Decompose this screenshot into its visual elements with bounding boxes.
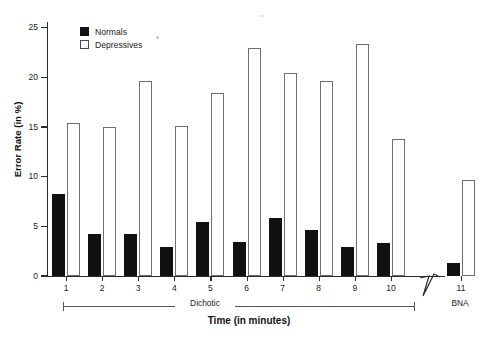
legend-label-normals: Normals xyxy=(95,27,127,37)
bar-normals-3 xyxy=(124,234,137,276)
bar-normals-5 xyxy=(196,222,209,276)
x-tick-3 xyxy=(138,276,139,281)
y-tick-20 xyxy=(41,77,47,78)
y-axis-line xyxy=(47,22,48,276)
bar-depressives-10 xyxy=(392,139,405,276)
legend-label-depressives: Depressives xyxy=(95,40,142,50)
x-tick-6 xyxy=(247,276,248,281)
legend-item-normals: Normals xyxy=(80,25,142,38)
bar-depressives-2 xyxy=(103,127,116,276)
scan-speck xyxy=(261,15,263,17)
bar-depressives-6 xyxy=(248,48,261,276)
y-tick-label-0: 0 xyxy=(0,272,38,281)
x-tick-4 xyxy=(174,276,175,281)
bar-normals-7 xyxy=(269,218,282,276)
scan-speck xyxy=(156,36,159,39)
x-tick-label-2: 2 xyxy=(90,284,114,293)
bar-normals-11 xyxy=(447,263,460,276)
bar-depressives-8 xyxy=(320,81,333,276)
x-tick-label-1: 1 xyxy=(54,284,78,293)
y-tick-0 xyxy=(41,275,47,276)
y-tick-10 xyxy=(41,176,47,177)
dichotic-label: Dichotic xyxy=(175,298,235,308)
bar-depressives-9 xyxy=(356,44,369,276)
x-tick-11 xyxy=(461,276,462,281)
dichotic-bracket xyxy=(63,302,415,311)
bna-label: BNA xyxy=(440,298,480,308)
bar-normals-6 xyxy=(233,242,246,276)
legend-item-depressives: Depressives xyxy=(80,38,142,51)
x-tick-label-6: 6 xyxy=(235,284,259,293)
y-tick-15 xyxy=(41,126,47,127)
y-tick-5 xyxy=(41,226,47,227)
axis-break-icon xyxy=(420,262,448,298)
y-tick-label-25: 25 xyxy=(0,23,38,32)
x-axis-title: Time (in minutes) xyxy=(0,315,498,326)
bar-normals-1 xyxy=(52,194,65,276)
x-tick-label-5: 5 xyxy=(198,284,222,293)
x-tick-7 xyxy=(283,276,284,281)
bar-normals-8 xyxy=(305,230,318,276)
x-tick-5 xyxy=(210,276,211,281)
bar-normals-4 xyxy=(160,247,173,276)
bar-depressives-11 xyxy=(462,180,475,276)
x-tick-8 xyxy=(319,276,320,281)
x-tick-label-9: 9 xyxy=(343,284,367,293)
bar-normals-9 xyxy=(341,247,354,276)
bar-depressives-5 xyxy=(211,93,224,276)
x-tick-label-10: 10 xyxy=(379,284,403,293)
bar-normals-2 xyxy=(88,234,101,276)
x-tick-1 xyxy=(66,276,67,281)
y-tick-25 xyxy=(41,27,47,28)
x-tick-9 xyxy=(355,276,356,281)
x-tick-label-4: 4 xyxy=(162,284,186,293)
chart-figure: 0510152025 1234567891011 Normals Depress… xyxy=(0,0,498,338)
x-tick-label-7: 7 xyxy=(271,284,295,293)
chart-legend: Normals Depressives xyxy=(80,25,142,51)
x-tick-label-11: 11 xyxy=(449,284,473,293)
bar-depressives-7 xyxy=(284,73,297,276)
bar-depressives-3 xyxy=(139,81,152,276)
filled-square-icon xyxy=(80,27,89,36)
bar-depressives-4 xyxy=(175,126,188,276)
x-tick-2 xyxy=(102,276,103,281)
bar-normals-10 xyxy=(377,243,390,276)
y-tick-label-5: 5 xyxy=(0,222,38,231)
x-tick-label-8: 8 xyxy=(307,284,331,293)
x-tick-10 xyxy=(391,276,392,281)
y-axis-title: Error Rate (in %) xyxy=(12,80,23,200)
x-tick-label-3: 3 xyxy=(126,284,150,293)
hollow-square-icon xyxy=(80,40,89,49)
bar-depressives-1 xyxy=(67,123,80,276)
